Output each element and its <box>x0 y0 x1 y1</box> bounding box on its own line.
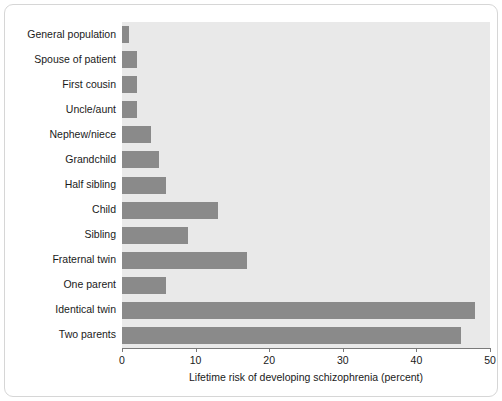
category-label: Nephew/niece <box>0 129 116 140</box>
category-label: Spouse of patient <box>0 54 116 65</box>
bar <box>122 302 475 319</box>
bar <box>122 177 166 194</box>
category-label: Two parents <box>0 329 116 340</box>
category-label: One parent <box>0 279 116 290</box>
bar <box>122 51 137 68</box>
x-tick-label: 40 <box>411 354 423 366</box>
category-label: Fraternal twin <box>0 254 116 265</box>
plot-area <box>122 22 490 348</box>
x-tick-mark <box>196 348 197 352</box>
bar <box>122 252 247 269</box>
bar <box>122 126 151 143</box>
bars-layer <box>122 22 490 348</box>
x-tick-label: 0 <box>119 354 125 366</box>
x-tick-label: 20 <box>263 354 275 366</box>
bar <box>122 76 137 93</box>
x-tick-mark <box>269 348 270 352</box>
category-label: Grandchild <box>0 154 116 165</box>
x-axis-title: Lifetime risk of developing schizophreni… <box>122 371 490 383</box>
category-label: Identical twin <box>0 304 116 315</box>
x-tick-mark <box>490 348 491 352</box>
bar <box>122 227 188 244</box>
bar <box>122 26 129 43</box>
category-axis-labels: General populationSpouse of patientFirst… <box>0 22 116 348</box>
category-label: General population <box>0 29 116 40</box>
bar <box>122 202 218 219</box>
x-tick-mark <box>343 348 344 352</box>
bar <box>122 277 166 294</box>
category-label: First cousin <box>0 79 116 90</box>
x-tick-mark <box>122 348 123 352</box>
x-tick-label: 50 <box>484 354 496 366</box>
bar <box>122 327 461 344</box>
x-tick-label: 10 <box>190 354 202 366</box>
bar <box>122 151 159 168</box>
x-tick-mark <box>416 348 417 352</box>
x-tick-label: 30 <box>337 354 349 366</box>
category-label: Uncle/aunt <box>0 104 116 115</box>
schizophrenia-risk-bar-chart: General populationSpouse of patientFirst… <box>0 0 502 401</box>
category-label: Child <box>0 204 116 215</box>
bar <box>122 101 137 118</box>
x-axis-line <box>122 348 490 349</box>
category-label: Sibling <box>0 229 116 240</box>
category-label: Half sibling <box>0 179 116 190</box>
